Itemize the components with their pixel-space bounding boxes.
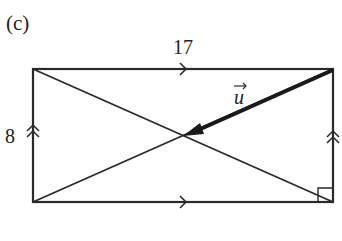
top-side-label: 17 (173, 36, 193, 58)
part-label: (c) (6, 11, 29, 35)
vector-u-arrowhead-icon (183, 123, 204, 136)
left-side-label: 8 (5, 125, 15, 147)
rectangle-diagram: (c) 17 8 u (0, 0, 342, 241)
right-angle-marker-icon (318, 188, 333, 202)
vector-u-line (196, 70, 333, 131)
vector-label: u (234, 86, 244, 108)
